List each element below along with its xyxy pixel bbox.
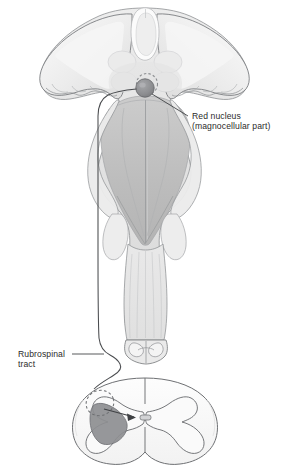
red-nucleus-label-line2: (magnocellular part): [192, 121, 270, 131]
gracile-tubercle-right: [161, 214, 186, 260]
rubrospinal-label-line1: Rubrospinal: [18, 349, 65, 359]
rubrospinal-label-group: Rubrospinal tract: [18, 349, 104, 369]
gracile-tubercle-left: [103, 214, 128, 260]
brainstem-group: [40, 8, 250, 364]
anatomy-figure: Red nucleus (magnocellular part) Rubrosp…: [0, 0, 289, 469]
brainstem-diagram-svg: Red nucleus (magnocellular part) Rubrosp…: [0, 0, 289, 469]
rubrospinal-label-line2: tract: [18, 359, 36, 369]
red-nucleus-core: [136, 79, 154, 97]
spinal-cord-cross-section: [73, 378, 218, 464]
pineal-inner: [136, 13, 156, 56]
red-nucleus-highlight: [139, 82, 145, 87]
red-nucleus-label-line1: Red nucleus: [192, 111, 241, 121]
central-canal: [140, 415, 151, 420]
